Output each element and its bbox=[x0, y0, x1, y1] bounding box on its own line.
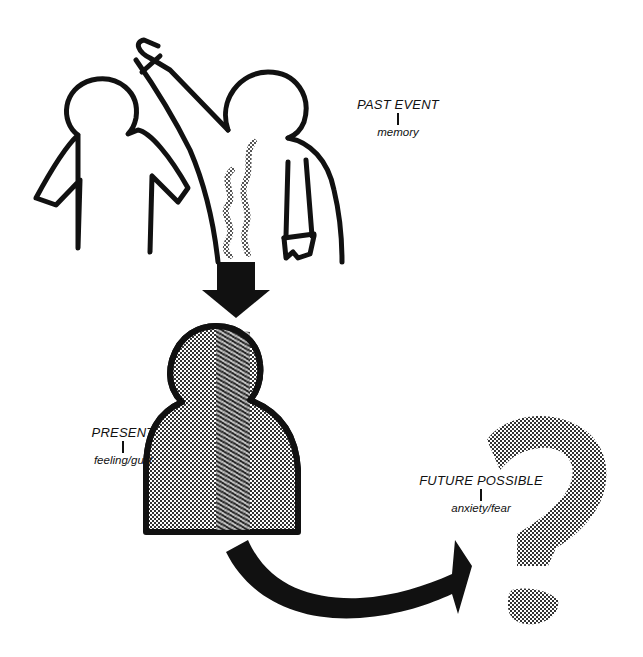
present-figure bbox=[146, 326, 298, 532]
accuser-figure bbox=[136, 40, 342, 262]
future-possible-title: FUTURE POSSIBLE bbox=[418, 473, 544, 488]
curved-arrow bbox=[226, 540, 472, 618]
down-arrow bbox=[202, 262, 270, 318]
label-connector-line bbox=[122, 441, 124, 453]
past-event-label: PAST EVENT memory bbox=[348, 97, 448, 138]
future-possible-subtitle: anxiety/fear bbox=[418, 502, 544, 514]
emotional-time-diagram bbox=[0, 0, 643, 657]
past-event-subtitle: memory bbox=[348, 126, 448, 138]
steam-lines bbox=[226, 142, 254, 256]
future-possible-label: FUTURE POSSIBLE anxiety/fear bbox=[418, 473, 544, 514]
past-event-title: PAST EVENT bbox=[348, 97, 448, 112]
present-subtitle: feeling/guilt bbox=[78, 454, 168, 466]
question-mark bbox=[487, 416, 606, 624]
present-label: PRESENT feeling/guilt bbox=[78, 425, 168, 466]
label-connector-line bbox=[480, 489, 482, 501]
present-title: PRESENT bbox=[78, 425, 168, 440]
label-connector-line bbox=[397, 113, 399, 125]
